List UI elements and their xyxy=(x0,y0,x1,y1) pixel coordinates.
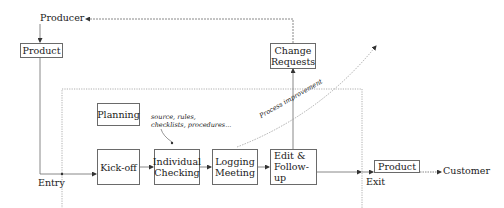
entry-label: Entry xyxy=(38,177,65,188)
input-product-label: Product xyxy=(23,45,61,56)
step-logging-meeting: Logging Meeting xyxy=(212,149,258,185)
input-product-box: Product xyxy=(20,43,63,58)
step-logging-meeting-line2: Meeting xyxy=(215,167,255,178)
planning-box: Planning xyxy=(97,103,140,126)
output-product-label: Product xyxy=(378,161,416,172)
change-requests-line2: Requests xyxy=(271,56,315,67)
step-logging-meeting-line1: Logging xyxy=(215,156,254,167)
customer-label: Customer xyxy=(443,165,490,176)
annotation-line2: checklists, procedures... xyxy=(151,121,231,129)
change-requests-line1: Change xyxy=(275,45,312,56)
planning-label: Planning xyxy=(97,109,140,120)
step-individual-checking-line2: Checking xyxy=(154,167,199,178)
step-edit-follow-up: Edit & Follow-up xyxy=(270,149,317,185)
step-kick-off: Kick-off xyxy=(97,149,140,185)
annotation-text: source, rules, checklists, procedures... xyxy=(151,113,231,129)
inspection-process-diagram: Producer Product Change Requests Plannin… xyxy=(0,0,504,208)
annotation-line1: source, rules, xyxy=(151,113,231,121)
step-individual-checking-line1: Individual xyxy=(153,156,201,167)
change-requests-box: Change Requests xyxy=(270,43,316,69)
output-product-box: Product xyxy=(374,160,420,173)
step-individual-checking: Individual Checking xyxy=(154,149,200,185)
producer-label: Producer xyxy=(40,12,84,23)
step-kick-off-label: Kick-off xyxy=(100,162,137,173)
feedback-line xyxy=(86,19,293,43)
exit-label: Exit xyxy=(366,176,385,187)
step-edit-follow-up-line1: Edit & xyxy=(274,150,305,161)
step-edit-follow-up-line2: Follow-up xyxy=(274,161,316,183)
